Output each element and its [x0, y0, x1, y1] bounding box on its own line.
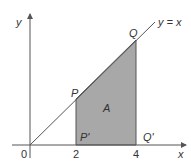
x-axis-label: x [177, 148, 184, 160]
line-label: y = x [157, 16, 182, 28]
point-q-prime-label: Q' [143, 131, 155, 143]
tick-label-2: 2 [73, 148, 79, 160]
point-p-label: P [71, 87, 79, 99]
y-axis-label: y [15, 16, 23, 28]
region-a-label: A [102, 102, 110, 114]
tick-label-4: 4 [133, 148, 139, 160]
origin-label: 0 [21, 148, 27, 160]
point-p-prime-label: P' [80, 131, 90, 143]
point-q-label: Q [129, 27, 138, 39]
shaded-region-a [76, 40, 136, 145]
area-diagram: y x 0 2 4 y = x P Q P' Q' A [0, 0, 191, 161]
